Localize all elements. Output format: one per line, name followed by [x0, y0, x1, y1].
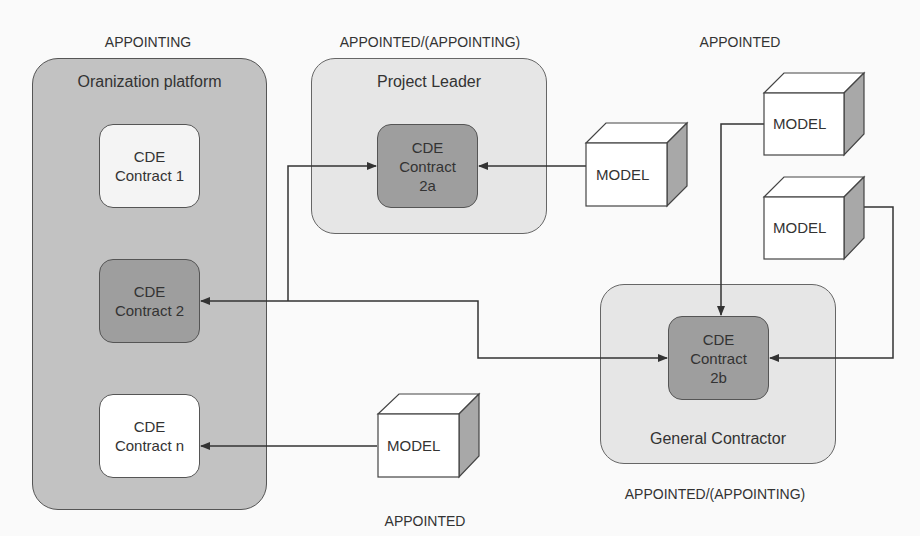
model-3-label: MODEL: [773, 219, 826, 236]
model-4-label: MODEL: [387, 437, 440, 454]
arrow-to-2b: [288, 301, 667, 358]
model-2-label: MODEL: [773, 115, 826, 132]
arrow-model2-to-2b: [721, 124, 764, 315]
model-1-label: MODEL: [596, 166, 649, 183]
model-cube-icon: [586, 123, 687, 206]
model-cube-icon: [764, 177, 864, 259]
arrow-branch-to-2a: [288, 166, 376, 301]
model-cube-icon: [764, 73, 864, 155]
connector-layer: [0, 0, 920, 536]
model-cube-icon: [378, 394, 479, 477]
